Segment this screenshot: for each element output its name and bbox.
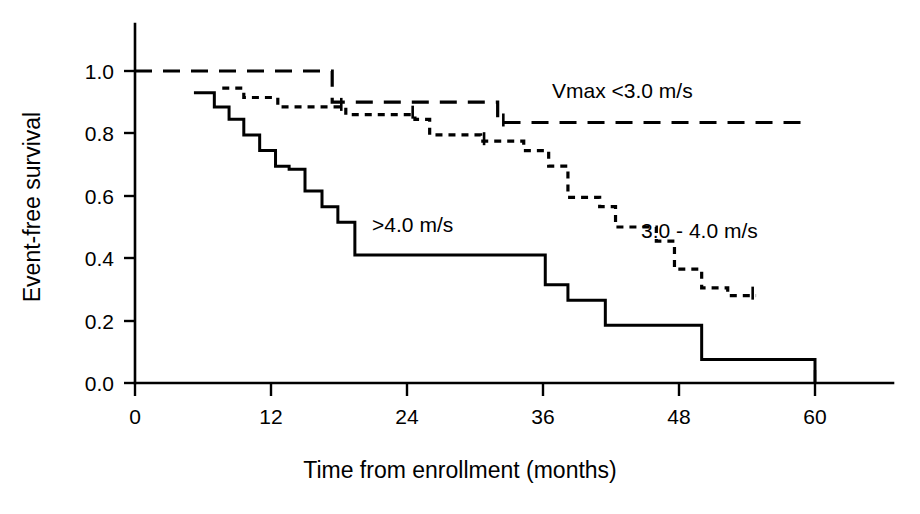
x-tick-label-0: 0 <box>129 405 141 428</box>
x-tick-label-60: 60 <box>803 405 826 428</box>
series-label-vmax-mid: 3.0 - 4.0 m/s <box>641 219 758 242</box>
y-tick-label-0.4: 0.4 <box>85 247 115 270</box>
survival-chart-canvas: 1.0 0.8 0.6 0.4 0.2 0.0 0 12 24 36 48 60… <box>0 0 920 514</box>
y-axis-title: Event-free survival <box>19 112 45 302</box>
kaplan-meier-figure: 1.0 0.8 0.6 0.4 0.2 0.0 0 12 24 36 48 60… <box>0 0 920 514</box>
y-tick-label-0.8: 0.8 <box>85 122 114 145</box>
x-tick-label-12: 12 <box>259 405 282 428</box>
y-tick-label-0.2: 0.2 <box>85 310 114 333</box>
x-tick-label-48: 48 <box>667 405 690 428</box>
x-tick-label-24: 24 <box>395 405 419 428</box>
y-tick-label-1.0: 1.0 <box>85 60 114 83</box>
survival-curve-1 <box>222 88 756 295</box>
x-axis-title: Time from enrollment (months) <box>303 457 617 483</box>
y-tick-label-0.0: 0.0 <box>85 372 114 395</box>
series-label-vmax-low: Vmax <3.0 m/s <box>552 79 693 102</box>
y-tick-label-0.6: 0.6 <box>85 185 114 208</box>
censor-marks-group <box>341 98 752 300</box>
y-axis-ticks <box>124 71 135 383</box>
survival-curve-0 <box>135 71 804 122</box>
series-label-vmax-high: >4.0 m/s <box>372 213 453 236</box>
x-tick-label-36: 36 <box>531 405 554 428</box>
